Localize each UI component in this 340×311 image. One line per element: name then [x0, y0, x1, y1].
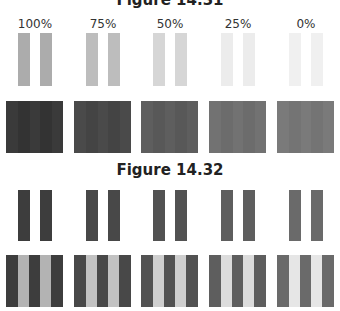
faint-stripe	[86, 101, 98, 153]
grating-bar	[175, 190, 187, 241]
dark-stripe	[119, 255, 131, 307]
grating-bar	[289, 33, 301, 86]
grating-block	[277, 255, 334, 307]
dark-stripe	[29, 255, 40, 307]
grating-block	[74, 101, 131, 153]
grating-block	[209, 101, 266, 153]
grating-bar	[40, 33, 52, 86]
grating-bar	[243, 33, 255, 86]
dark-stripe	[74, 255, 86, 307]
dark-stripe	[277, 255, 289, 307]
grating-bar	[289, 190, 301, 241]
grating-bar	[243, 190, 255, 241]
grating-bar	[175, 33, 187, 86]
grating-bar	[108, 33, 120, 86]
dark-stripe	[254, 255, 266, 307]
dark-stripe	[300, 255, 311, 307]
dark-stripe	[209, 255, 221, 307]
dark-stripe	[97, 255, 108, 307]
faint-stripe	[289, 101, 301, 153]
grating-bar	[311, 190, 323, 241]
grating-block	[277, 101, 334, 153]
grating-bar	[153, 190, 165, 241]
dark-stripe	[322, 255, 334, 307]
faint-stripe	[18, 101, 30, 153]
faint-stripe	[153, 101, 165, 153]
contrast-label: 0%	[276, 17, 336, 31]
grating-bar	[18, 190, 30, 241]
faint-stripe	[108, 101, 120, 153]
dark-stripe	[232, 255, 243, 307]
grating-block	[209, 255, 266, 307]
grating-bar	[108, 190, 120, 241]
grating-block	[6, 255, 63, 307]
dark-stripe	[6, 255, 18, 307]
grating-bar	[221, 33, 233, 86]
grating-block	[141, 101, 198, 153]
contrast-label: 50%	[140, 17, 200, 31]
faint-stripe	[311, 101, 323, 153]
grating-bar	[221, 190, 233, 241]
contrast-label: 100%	[5, 17, 65, 31]
faint-stripe	[40, 101, 52, 153]
grating-bar	[311, 33, 323, 86]
grating-block	[74, 255, 131, 307]
grating-bar	[86, 33, 98, 86]
contrast-label: 25%	[208, 17, 268, 31]
dark-stripe	[186, 255, 198, 307]
dark-stripe	[51, 255, 63, 307]
contrast-label: 75%	[73, 17, 133, 31]
grating-bar	[40, 190, 52, 241]
faint-stripe	[243, 101, 255, 153]
faint-stripe	[175, 101, 187, 153]
grating-block	[6, 101, 63, 153]
grating-bar	[18, 33, 30, 86]
figure-14-32-title: Figure 14.32	[0, 161, 340, 179]
grating-block	[141, 255, 198, 307]
grating-bar	[153, 33, 165, 86]
dark-stripe	[141, 255, 153, 307]
figure-14-31-title: Figure 14.31	[0, 0, 340, 9]
dark-stripe	[164, 255, 175, 307]
grating-bar	[86, 190, 98, 241]
faint-stripe	[221, 101, 233, 153]
